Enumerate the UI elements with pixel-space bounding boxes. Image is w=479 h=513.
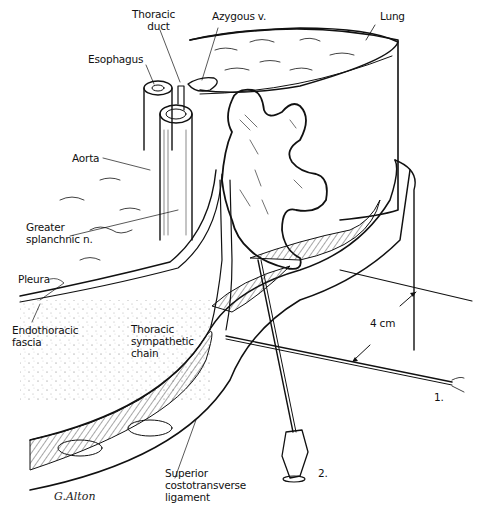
label-thoracic-duct-line1: Thoracic — [132, 8, 175, 20]
label-aorta: Aorta — [72, 152, 99, 164]
label-greater-splanchnic-nerve: Greater splanchnic n. — [26, 221, 93, 245]
label-sympathetic-line3: chain — [131, 347, 194, 359]
label-endothoracic-fascia: Endothoracic fascia — [12, 324, 78, 348]
label-ligament-line3: ligament — [165, 491, 246, 503]
label-measurement: 4 cm — [370, 317, 395, 329]
illustration-drawing — [0, 0, 479, 513]
anatomical-illustration: Thoracic duct Azygous v. Lung Esophagus … — [0, 0, 479, 513]
lung-block — [190, 25, 398, 220]
label-endothoracic-line2: fascia — [12, 336, 78, 348]
aorta — [160, 105, 192, 240]
label-azygous-vein: Azygous v. — [212, 10, 266, 22]
label-thoracic-duct: Thoracic duct — [132, 8, 175, 32]
needle-2 — [258, 260, 308, 482]
azygous-vein — [188, 78, 217, 92]
measurement-indicator — [340, 270, 472, 362]
label-greater-splanchnic-line2: splanchnic n. — [26, 233, 93, 245]
label-superior-costotransverse-ligament: Superior costotransverse ligament — [165, 467, 246, 503]
needle-1 — [226, 336, 464, 392]
label-sympathetic-line2: sympathetic — [131, 335, 194, 347]
label-sympathetic-line1: Thoracic — [131, 323, 194, 335]
label-ligament-line2: costotransverse — [165, 479, 246, 491]
label-endothoracic-line1: Endothoracic — [12, 324, 78, 336]
label-lung: Lung — [380, 10, 405, 22]
label-thoracic-duct-line2: duct — [132, 20, 175, 32]
label-thoracic-sympathetic-chain: Thoracic sympathetic chain — [131, 323, 194, 359]
label-greater-splanchnic-line1: Greater — [26, 221, 93, 233]
label-pleura: Pleura — [18, 273, 50, 285]
artist-signature: G.Alton — [54, 490, 95, 503]
label-needle-2: 2. — [318, 467, 328, 479]
label-ligament-line1: Superior — [165, 467, 246, 479]
label-needle-1: 1. — [434, 391, 444, 403]
label-esophagus: Esophagus — [88, 53, 143, 65]
